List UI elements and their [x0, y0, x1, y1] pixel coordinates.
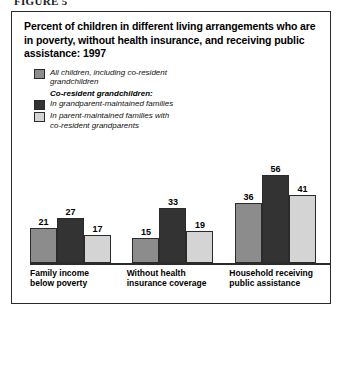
bar-value-label: 33 [168, 197, 178, 207]
bar-series-2 [57, 218, 84, 263]
category-label-family-income: Family incomebelow poverty [30, 268, 121, 288]
bar-series-3 [289, 195, 316, 263]
legend-swatch-series-1 [34, 69, 45, 79]
category-label-without-health-insurance: Without healthinsurance coverage [121, 268, 218, 288]
bar-series-1 [235, 203, 262, 263]
bar-series-3 [84, 235, 111, 263]
bar-value-label: 56 [270, 164, 280, 174]
bar-series-2 [262, 175, 289, 263]
chart-legend: All children, including co-residentgrand… [34, 68, 244, 131]
category-label-household-receiving: Household receivingpublic assistance [217, 268, 320, 288]
figure-caption: FIGURE 5 [14, 0, 67, 6]
bar-value-label: 36 [243, 192, 253, 202]
chart-title: Percent of children in different living … [24, 20, 318, 61]
legend-label-series-2: In grandparent-maintained families [50, 99, 173, 109]
bar-item: 41 [289, 164, 316, 263]
legend-label-series-1: All children, including co-residentgrand… [50, 68, 167, 87]
figure-box: Percent of children in different living … [11, 11, 331, 304]
bar-series-1 [132, 238, 159, 263]
bar-item: 21 [30, 164, 57, 263]
bar-series-1 [30, 228, 57, 263]
legend-item-parent-maintained: In parent-maintained families withco-res… [34, 111, 244, 130]
bar-group-family-income-below-poverty: 21 27 17 [30, 164, 125, 263]
x-axis-baseline [30, 263, 330, 265]
legend-item-all-children: All children, including co-residentgrand… [34, 68, 244, 87]
legend-label-series-3: In parent-maintained families withco-res… [50, 111, 169, 130]
bar-series-2 [159, 208, 186, 263]
bar-group-household-receiving-public-assistance: 36 56 41 [221, 164, 316, 263]
bar-item: 19 [186, 164, 213, 263]
bar-item: 56 [262, 164, 289, 263]
bar-value-label: 19 [195, 220, 205, 230]
bar-item: 27 [57, 164, 84, 263]
bar-item: 36 [235, 164, 262, 263]
legend-subhead-co-resident: Co-resident grandchildren: [50, 89, 244, 100]
bar-item: 17 [84, 164, 111, 263]
bar-groups: 21 27 17 15 33 [12, 164, 330, 263]
bar-item: 15 [132, 164, 159, 263]
plot-area: 21 27 17 15 33 [12, 164, 330, 263]
bar-series-3 [186, 231, 213, 263]
legend-swatch-series-2 [34, 100, 45, 110]
bar-group-without-health-insurance-coverage: 15 33 19 [125, 164, 220, 263]
bar-value-label: 41 [297, 184, 307, 194]
bar-value-label: 15 [141, 227, 151, 237]
bar-value-label: 27 [65, 207, 75, 217]
bar-value-label: 21 [38, 217, 48, 227]
bar-item: 33 [159, 164, 186, 263]
bar-value-label: 17 [92, 224, 102, 234]
legend-item-grandparent-maintained: In grandparent-maintained families [34, 99, 244, 110]
category-labels: Family incomebelow poverty Without healt… [12, 268, 330, 288]
legend-swatch-series-3 [34, 112, 45, 122]
